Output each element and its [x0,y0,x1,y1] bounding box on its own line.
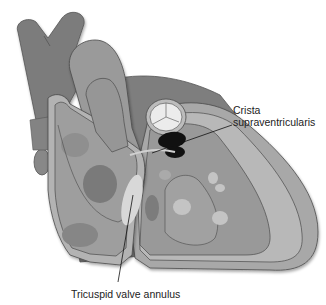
crista-supraventricularis-label: Crista supraventricularis [233,104,315,128]
pulmonary-valve [146,99,186,135]
fossa-ovalis [83,165,117,203]
tricuspid-valve-annulus-label: Tricuspid valve annulus [71,288,180,300]
heart-diagram: Crista supraventricularis Tricuspid valv… [0,0,326,305]
heart-illustration [0,0,326,305]
crista-label-line2: supraventricularis [233,116,315,128]
crista-label-line1: Crista [233,104,315,116]
